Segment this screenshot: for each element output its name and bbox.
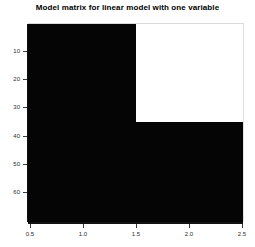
plot-frame-right-border bbox=[243, 23, 244, 222]
y-axis-tick bbox=[23, 107, 27, 108]
y-axis-tick-label: 50 bbox=[4, 161, 20, 167]
matrix-column-variable bbox=[136, 122, 243, 222]
y-axis-tick-label: 20 bbox=[4, 76, 20, 82]
y-axis-tick bbox=[23, 51, 27, 52]
x-axis-tick-label: 2.0 bbox=[177, 231, 201, 238]
x-axis-tick-label: 1.5 bbox=[124, 231, 148, 238]
model-matrix-figure: Model matrix for linear model with one v… bbox=[0, 0, 255, 247]
x-axis-tick bbox=[189, 224, 190, 228]
y-axis-tick bbox=[23, 192, 27, 193]
matrix-plot-area bbox=[28, 24, 243, 222]
x-axis-tick bbox=[242, 224, 243, 228]
matrix-column-intercept bbox=[28, 24, 136, 222]
y-axis-tick bbox=[23, 164, 27, 165]
y-axis-tick bbox=[23, 79, 27, 80]
y-axis-tick-label: 60 bbox=[4, 189, 20, 195]
y-axis-tick-label: 40 bbox=[4, 133, 20, 139]
x-axis-tick bbox=[136, 224, 137, 228]
y-axis-tick-label: 10 bbox=[4, 48, 20, 54]
x-axis-tick-label: 2.5 bbox=[230, 231, 254, 238]
x-axis-tick bbox=[83, 224, 84, 228]
page-title: Model matrix for linear model with one v… bbox=[0, 3, 255, 13]
y-axis-tick-label: 30 bbox=[4, 104, 20, 110]
y-axis-tick bbox=[23, 136, 27, 137]
x-axis-tick-label: 0.5 bbox=[18, 231, 42, 238]
x-axis-tick bbox=[30, 224, 31, 228]
y-axis-line bbox=[27, 24, 28, 222]
x-axis-tick-label: 1.0 bbox=[71, 231, 95, 238]
